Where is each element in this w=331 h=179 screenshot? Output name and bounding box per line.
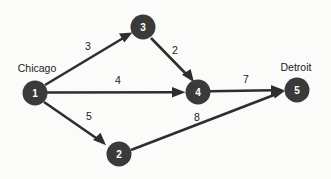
city-label-chicago: Chicago [18, 62, 57, 74]
network-graph-svg: 1 2 3 4 5 3 [0, 0, 331, 179]
edge-1-to-4[interactable] [47, 87, 186, 97]
arrow-head-1-2 [93, 133, 106, 145]
node-2[interactable]: 2 [107, 142, 132, 167]
node-4[interactable]: 4 [186, 80, 211, 105]
node-5-detroit[interactable]: 5 [285, 78, 310, 103]
node-label-3: 3 [140, 22, 146, 33]
city-label-detroit: Detroit [281, 61, 312, 73]
node-label-1: 1 [32, 88, 38, 99]
node-label-5: 5 [294, 85, 300, 96]
arrow-head-1-4 [172, 87, 186, 97]
edge-weight-3-4: 2 [172, 44, 178, 56]
edge-weight-1-4: 4 [115, 74, 121, 86]
edge-weight-1-2: 5 [86, 110, 92, 122]
edge-group [44, 33, 285, 151]
edge-weight-1-3: 3 [85, 40, 91, 52]
edge-weight-4-5: 7 [243, 73, 249, 85]
node-3[interactable]: 3 [131, 15, 156, 40]
node-1-chicago[interactable]: 1 [23, 81, 48, 106]
edge-weight-group: 3 2 4 7 5 8 [85, 40, 249, 123]
node-label-2: 2 [116, 149, 122, 160]
arrow-head-1-3 [119, 33, 133, 43]
node-label-4: 4 [195, 87, 201, 98]
network-diagram-canvas: 1 2 3 4 5 3 [0, 0, 331, 179]
city-label-group: Chicago Detroit [18, 61, 312, 74]
edge-line-4-5 [210, 90, 273, 91]
edge-1-to-2[interactable] [44, 102, 106, 145]
edge-line-3-4 [151, 38, 188, 76]
edge-weight-2-5: 8 [194, 111, 200, 123]
